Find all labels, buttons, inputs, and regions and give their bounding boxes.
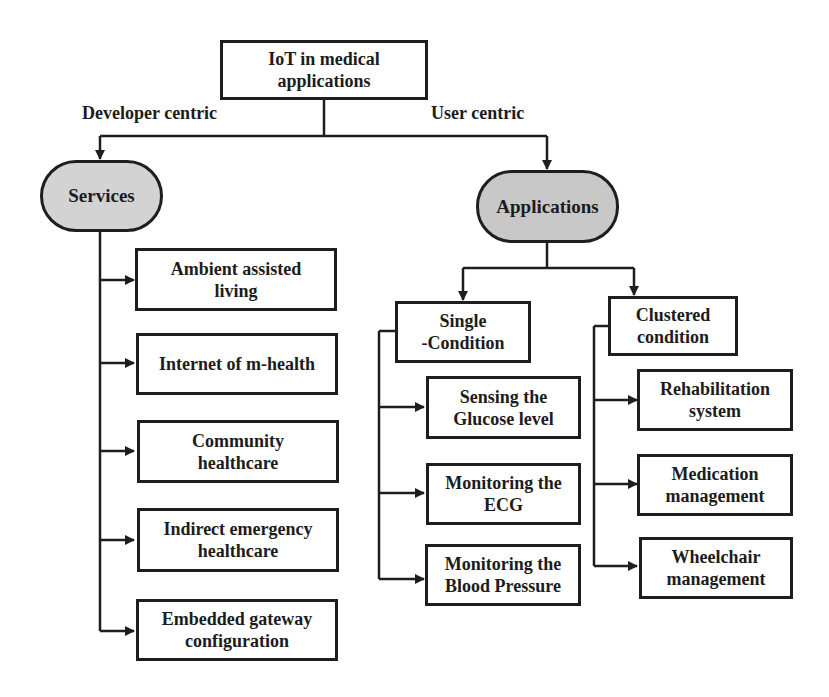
item-line1: Monitoring the [445, 553, 562, 575]
service-ambient-assisted-living: Ambient assisted living [135, 248, 337, 311]
developer-centric-label: Developer centric [82, 103, 217, 124]
service-embedded-gateway-configuration: Embedded gateway configuration [136, 599, 338, 661]
clustered-condition-node: Clustered condition [608, 296, 738, 356]
clustered-condition-line1: Clustered [636, 304, 711, 326]
item-line2: management [666, 485, 765, 507]
item-line2: ECG [445, 494, 562, 516]
service-line1: Community [192, 430, 284, 452]
root-line1: IoT in medical [268, 48, 380, 70]
clustered-medication-management: Medication management [637, 454, 793, 516]
clustered-wheelchair-management: Wheelchair management [639, 537, 793, 599]
diagram-canvas: IoT in medical applications Developer ce… [0, 0, 829, 697]
item-line2: Blood Pressure [445, 575, 562, 597]
single-sensing-glucose-level: Sensing the Glucose level [426, 376, 581, 439]
service-line2: healthcare [192, 452, 284, 474]
service-community-healthcare: Community healthcare [137, 420, 339, 483]
service-line1: Ambient assisted [171, 258, 302, 280]
item-line1: Wheelchair [667, 546, 766, 568]
service-line2: healthcare [163, 540, 312, 562]
service-indirect-emergency-healthcare: Indirect emergency healthcare [137, 508, 339, 572]
single-monitoring-blood-pressure: Monitoring the Blood Pressure [425, 544, 581, 606]
item-line1: Sensing the [453, 386, 553, 408]
clustered-condition-line2: condition [636, 326, 711, 348]
single-condition-line1: Single [421, 310, 504, 332]
service-internet-of-m-health: Internet of m-health [136, 333, 338, 395]
item-line1: Rehabilitation [660, 378, 770, 400]
services-label: Services [68, 185, 134, 207]
item-line1: Monitoring the [445, 472, 562, 494]
clustered-rehabilitation-system: Rehabilitation system [637, 369, 793, 431]
single-condition-node: Single -Condition [395, 301, 531, 363]
service-line1: Embedded gateway [162, 608, 313, 630]
service-line2: living [171, 280, 302, 302]
single-monitoring-ecg: Monitoring the ECG [426, 463, 581, 525]
service-line2: configuration [162, 630, 313, 652]
services-node: Services [40, 160, 163, 232]
applications-label: Applications [496, 196, 598, 218]
user-centric-label: User centric [431, 103, 524, 124]
service-line1: Indirect emergency [163, 518, 312, 540]
item-line2: Glucose level [453, 408, 553, 430]
single-condition-line2: -Condition [421, 332, 504, 354]
root-node: IoT in medical applications [220, 40, 428, 100]
applications-node: Applications [476, 170, 619, 243]
item-line2: management [667, 568, 766, 590]
item-line2: system [660, 400, 770, 422]
service-line1: Internet of m-health [159, 353, 315, 375]
root-line2: applications [268, 70, 380, 92]
item-line1: Medication [666, 463, 765, 485]
